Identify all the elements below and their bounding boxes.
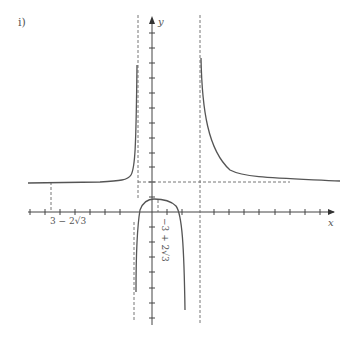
right-branch <box>201 58 340 181</box>
y-axis-label: y <box>157 16 164 27</box>
left-root-label: 3 − 2√3 <box>50 216 86 226</box>
y-axis-arrow-icon <box>149 16 155 24</box>
curves <box>28 58 340 310</box>
asymptotes <box>51 15 290 325</box>
part-label: i) <box>18 16 26 29</box>
x-axis <box>28 209 334 215</box>
x-axis-label: x <box>328 217 334 228</box>
x-axis-arrow-icon <box>328 209 335 215</box>
left-branch <box>28 65 137 183</box>
right-root-label: −3 + 2√3 <box>160 218 170 262</box>
function-graph: i) x <box>0 0 356 339</box>
y-axis <box>149 24 155 325</box>
